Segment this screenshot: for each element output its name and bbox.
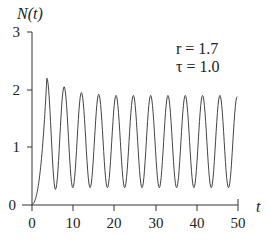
x-tick-40: 40 [190, 215, 205, 231]
annotation-r: r = 1.7 [176, 40, 218, 57]
y-tick-1: 1 [13, 139, 21, 155]
x-tick-30: 30 [149, 215, 164, 231]
x-axis-title: t [256, 198, 261, 215]
y-tick-2: 2 [13, 82, 21, 98]
x-tick-20: 20 [107, 215, 122, 231]
x-axis [22, 199, 238, 211]
y-tick-3: 3 [13, 24, 21, 40]
series-line [32, 78, 237, 204]
x-tick-50: 50 [231, 215, 246, 231]
annotation-tau: τ = 1.0 [176, 58, 219, 75]
y-axis [27, 32, 32, 205]
y-axis-title: N(t) [16, 5, 43, 23]
x-tick-0: 0 [28, 215, 36, 231]
chart: 3 2 1 0 0 10 20 30 40 50 N(t) t r = 1.7 … [0, 0, 270, 242]
x-tick-10: 10 [66, 215, 81, 231]
y-tick-0: 0 [9, 197, 17, 213]
